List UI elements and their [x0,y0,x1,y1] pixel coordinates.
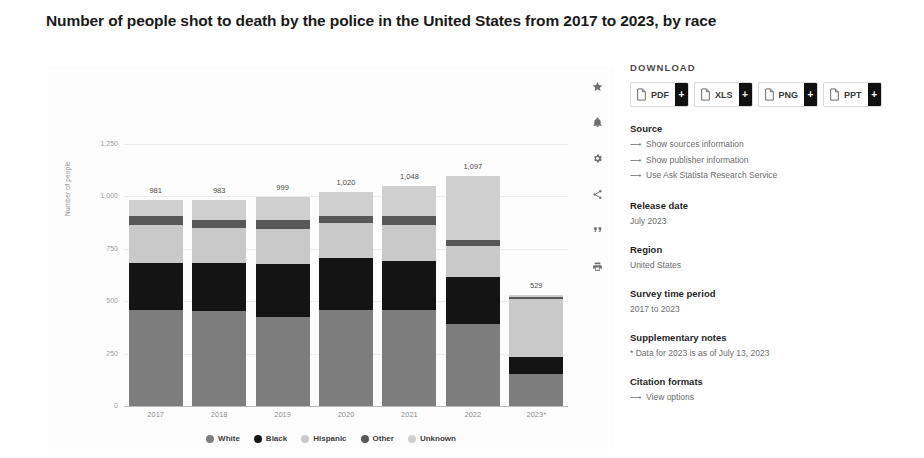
download-xls-options-button[interactable]: + [739,83,752,106]
legend-label: Unknown [420,434,456,443]
legend-item-hispanic[interactable]: Hispanic [301,434,346,443]
bar-segment-hispanic[interactable] [446,246,500,277]
bar-value-label: 981 [149,186,162,195]
survey-time-period-title: Survey time period [630,288,908,299]
legend-label: Black [266,434,287,443]
download-ppt-options-button[interactable]: + [868,83,881,106]
bar-segment-white[interactable] [319,310,373,406]
bar-value-label: 1,020 [337,178,356,187]
bar-group[interactable] [382,186,436,406]
bar-group[interactable] [129,200,183,406]
bar-segment-white[interactable] [382,310,436,406]
bar-segment-hispanic[interactable] [192,228,246,263]
y-tick-label: 1,000 [72,192,118,199]
bar-group[interactable] [256,197,310,406]
y-tick-label: 750 [72,245,118,252]
bar-segment-black[interactable] [509,357,563,373]
bar-segment-black[interactable] [382,261,436,310]
star-icon[interactable] [589,78,605,94]
download-xls-main[interactable]: XLS [695,83,739,106]
x-tick-label: 2020 [319,410,373,419]
bar-group[interactable] [192,200,246,406]
source-link[interactable]: ⟶Use Ask Statista Research Service [630,168,908,184]
bar-segment-other[interactable] [319,216,373,223]
share-icon[interactable] [589,186,605,202]
download-ppt-button[interactable]: PPT+ [823,82,882,107]
bar-segment-unknown[interactable] [129,200,183,216]
bar-group[interactable] [509,295,563,406]
bar-value-label: 529 [530,281,543,290]
bar-segment-other[interactable] [382,216,436,225]
bar-segment-hispanic[interactable] [129,225,183,263]
bar-group[interactable] [319,192,373,406]
download-pdf-main[interactable]: PDF [631,83,675,106]
plot-area: Number of people 02505007501,0001,250 98… [48,66,580,386]
print-icon[interactable] [589,258,605,274]
statista-chart-page: Number of people shot to death by the po… [0,0,924,458]
bar-segment-white[interactable] [446,324,500,406]
document-icon [636,88,647,101]
region-value: United States [630,258,908,272]
legend-item-unknown[interactable]: Unknown [408,434,456,443]
bar-segment-unknown[interactable] [192,200,246,220]
bar-group[interactable] [446,176,500,406]
bar-segment-unknown[interactable] [319,192,373,216]
download-png-main[interactable]: PNG [759,83,805,106]
download-png-options-button[interactable]: + [804,83,817,106]
download-format-label: PNG [779,90,799,100]
legend-item-black[interactable]: Black [254,434,287,443]
bar-segment-white[interactable] [192,311,246,406]
bar-value-label: 983 [213,186,226,195]
bar-segment-white[interactable] [129,310,183,406]
bar-segment-black[interactable] [446,277,500,324]
bar-segment-black[interactable] [192,263,246,311]
bar-segment-unknown[interactable] [446,176,500,240]
download-pdf-options-button[interactable]: + [675,83,688,106]
bar-segment-unknown[interactable] [382,186,436,216]
bell-icon[interactable] [589,114,605,130]
x-axis-line [124,406,568,407]
source-title: Source [630,123,908,134]
bar-segment-other[interactable] [256,220,310,229]
bar-segment-hispanic[interactable] [319,223,373,258]
region-title: Region [630,244,908,255]
arrow-right-icon: ⟶ [630,391,641,406]
bar-segment-black[interactable] [256,264,310,317]
bar-segment-hispanic[interactable] [256,229,310,264]
source-link-label: Show sources information [646,137,744,152]
bar-segment-hispanic[interactable] [509,299,563,357]
bar-segment-other[interactable] [192,220,246,229]
chart-card: Number of people 02505007501,0001,250 98… [48,66,614,450]
y-tick-label: 250 [72,350,118,357]
download-format-label: PPT [844,90,862,100]
bar-segment-hispanic[interactable] [382,225,436,261]
download-pdf-button[interactable]: PDF+ [630,82,689,107]
x-tick-label: 2018 [192,410,246,419]
bars-container: 9819839991,0201,0481,097529 [124,66,568,386]
source-link[interactable]: ⟶Show sources information [630,137,908,153]
bar-segment-black[interactable] [129,263,183,310]
quote-icon[interactable] [589,222,605,238]
source-link-label: Show publisher information [646,153,749,168]
bar-segment-other[interactable] [129,216,183,225]
download-png-button[interactable]: PNG+ [758,82,819,107]
view-options-link[interactable]: ⟶ View options [630,390,908,406]
legend-item-other[interactable]: Other [361,434,394,443]
release-date-title: Release date [630,200,908,211]
gear-icon[interactable] [589,150,605,166]
legend-swatch [408,435,416,443]
chart-legend: WhiteBlackHispanicOtherUnknown [48,434,614,443]
bar-segment-black[interactable] [319,258,373,310]
source-link[interactable]: ⟶Show publisher information [630,153,908,169]
download-xls-button[interactable]: XLS+ [694,82,753,107]
release-date-section: Release date July 2023 [630,200,908,228]
bar-segment-white[interactable] [256,317,310,406]
y-tick-label: 1,250 [72,140,118,147]
legend-item-white[interactable]: White [206,434,240,443]
download-ppt-main[interactable]: PPT [824,83,868,106]
source-section: Source ⟶Show sources information⟶Show pu… [630,123,908,184]
bar-segment-white[interactable] [509,374,563,406]
bar-segment-unknown[interactable] [256,197,310,220]
supplementary-notes-title: Supplementary notes [630,332,908,343]
document-icon [764,88,775,101]
